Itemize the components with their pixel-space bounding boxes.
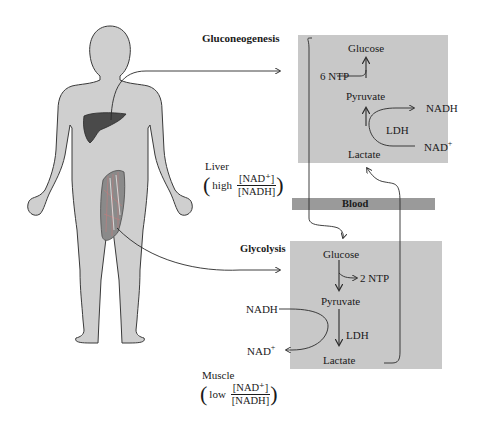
blood-label: Blood (342, 199, 368, 210)
gly-nadh-label: NADH (246, 304, 278, 315)
gly-lactate-label: Lactate (323, 355, 355, 366)
gng-ldh-label: LDH (386, 125, 409, 136)
liver-ratio-word: high (212, 179, 232, 191)
muscle-label: Muscle (202, 370, 234, 381)
gng-glucose-label: Glucose (348, 43, 384, 54)
gng-pyruvate-label: Pyruvate (346, 91, 385, 102)
liver-ratio: (high[NAD⁺][NADH]) (203, 172, 284, 198)
gly-ldh-label: LDH (346, 330, 369, 341)
gly-pyruvate-label: Pyruvate (321, 296, 360, 307)
muscle-ratio: (low[NAD⁺][NADH]) (200, 381, 277, 407)
glycolysis-title: Glycolysis (240, 244, 286, 255)
gly-ntp-label: 2 NTP (360, 273, 389, 284)
gluconeogenesis-title: Gluconeogenesis (202, 33, 280, 44)
gng-nad-label: NAD+ (424, 140, 452, 153)
cori-cycle-graphics (0, 0, 480, 428)
glycolysis-box (290, 241, 442, 369)
gly-nad-label: NAD+ (247, 344, 275, 357)
muscle-ratio-word: low (209, 388, 226, 400)
gng-nadh-label: NADH (426, 103, 458, 114)
gng-lactate-label: Lactate (348, 149, 380, 160)
liver-label: Liver (205, 161, 229, 172)
gng-ntp-label: 6 NTP (320, 71, 349, 82)
gly-glucose-label: Glucose (323, 249, 359, 260)
